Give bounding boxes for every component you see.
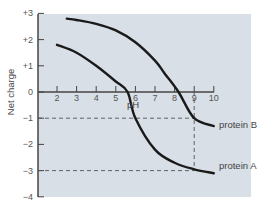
y-tick-label: +2 <box>23 35 33 45</box>
x-tick-label: 5 <box>113 93 118 103</box>
x-tick-label: 10 <box>209 93 219 103</box>
x-tick-label: 7 <box>152 93 157 103</box>
x-tick-label: 3 <box>74 93 79 103</box>
net-charge-chart: +3+2+10−1−2−3−4 2345678910 pH Net charge… <box>0 0 260 209</box>
label-protein-A: protein A <box>219 160 257 171</box>
y-tick-label: −1 <box>23 113 33 123</box>
y-tick-label: +3 <box>23 8 33 18</box>
x-axis-label: pH <box>127 99 139 110</box>
y-tick-label: −3 <box>23 166 33 176</box>
y-tick-label: −4 <box>23 192 33 202</box>
y-axis-label: Net charge <box>5 69 16 115</box>
y-tick-label: +1 <box>23 61 33 71</box>
x-tick-label: 8 <box>172 93 177 103</box>
y-tick-label: −2 <box>23 139 33 149</box>
x-tick-label: 4 <box>94 93 99 103</box>
label-protein-B: protein B <box>219 119 257 130</box>
y-tick-label: 0 <box>28 87 33 97</box>
x-tick-label: 2 <box>54 93 59 103</box>
